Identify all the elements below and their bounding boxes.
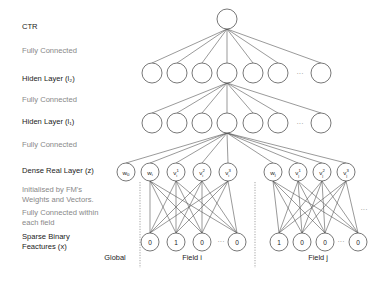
edge-dense-to-sparse-field-j xyxy=(279,181,298,233)
edge-dense-to-sparse-field-i xyxy=(176,181,237,233)
group-label-global: Global xyxy=(104,253,126,262)
sparse-node-value: 0 xyxy=(300,239,304,246)
sparse-node-value: 1 xyxy=(174,239,178,246)
hidden2-node xyxy=(268,63,288,83)
sparse-node-value: 0 xyxy=(323,239,327,246)
hidden2-node xyxy=(217,63,237,83)
edge-hidden1-to-dense xyxy=(176,133,227,163)
edge-hidden1-to-dense xyxy=(227,133,273,163)
hidden1-ellipsis: ··· xyxy=(297,120,304,127)
edge-ctr-to-hidden2 xyxy=(202,29,227,63)
edge-dense-to-sparse-field-j xyxy=(273,181,325,233)
edge-ctr-to-hidden2 xyxy=(227,29,253,63)
edge-dense-to-sparse-field-j xyxy=(273,181,279,233)
edge-dense-to-sparse-field-j xyxy=(302,181,346,233)
edge-ctr-to-hidden2 xyxy=(227,29,321,63)
edge-dense-to-sparse-field-j xyxy=(279,181,346,233)
nodes xyxy=(117,9,367,251)
sparse-node-value: 1 xyxy=(277,239,281,246)
hidden2-node xyxy=(192,63,212,83)
edge-hidden1-to-dense xyxy=(227,133,322,163)
sparse-node-value: 0 xyxy=(200,239,204,246)
edge-dense-to-sparse-field-j xyxy=(322,181,325,233)
hidden2-node xyxy=(142,63,162,83)
edge-hidden2-to-hidden1 xyxy=(227,83,321,113)
edge-hidden2-to-hidden1 xyxy=(227,83,253,113)
hidden2-ellipsis: ··· xyxy=(297,70,304,77)
edge-hidden2-to-hidden1 xyxy=(152,83,227,113)
field-j-sparse-ellipsis: ··· xyxy=(338,238,345,245)
edge-hidden1-to-dense xyxy=(202,133,227,163)
group-label-field-i: Field i xyxy=(182,253,202,262)
hidden1-node xyxy=(217,113,237,133)
hidden1-node xyxy=(268,113,288,133)
network-diagram: ······w0wiv1iv2iv3iwjv1jv2jv3j01001000··… xyxy=(0,0,386,281)
edge-ctr-to-hidden2 xyxy=(177,29,227,63)
sparse-node-value: 0 xyxy=(235,239,239,246)
hidden2-node xyxy=(311,63,331,83)
hidden1-node xyxy=(311,113,331,133)
edge-dense-to-sparse-field-j xyxy=(298,181,325,233)
hidden1-node xyxy=(192,113,212,133)
edge-ctr-to-hidden2 xyxy=(227,29,278,63)
edge-dense-to-sparse-field-i xyxy=(228,181,237,233)
sparse-node-value: 0 xyxy=(148,239,152,246)
group-label-field-j: Field j xyxy=(308,253,328,262)
hidden1-node xyxy=(167,113,187,133)
edge-hidden1-to-dense xyxy=(150,133,227,163)
edge-hidden2-to-hidden1 xyxy=(202,83,227,113)
ctr-node xyxy=(217,9,237,29)
more-fields-ellipsis: ··· xyxy=(361,206,368,213)
edge-hidden1-to-dense xyxy=(227,133,228,163)
hidden2-node xyxy=(243,63,263,83)
edge-dense-to-sparse-field-j xyxy=(273,181,302,233)
hidden1-node xyxy=(142,113,162,133)
edge-dense-to-sparse-field-j xyxy=(346,181,358,233)
edge-dense-to-sparse-field-j xyxy=(302,181,322,233)
edge-hidden2-to-hidden1 xyxy=(227,83,278,113)
edge-dense-to-sparse-field-i xyxy=(150,181,228,233)
edge-dense-to-sparse-field-j xyxy=(322,181,358,233)
hidden1-node xyxy=(243,113,263,133)
sparse-node-value: 0 xyxy=(356,239,360,246)
edge-hidden1-to-dense xyxy=(126,133,227,163)
edge-dense-to-sparse-field-i xyxy=(202,181,237,233)
edge-ctr-to-hidden2 xyxy=(152,29,227,63)
hidden2-node xyxy=(167,63,187,83)
field-i-sparse-ellipsis: ··· xyxy=(218,238,225,245)
edge-hidden2-to-hidden1 xyxy=(177,83,227,113)
edge-hidden1-to-dense xyxy=(227,133,346,163)
